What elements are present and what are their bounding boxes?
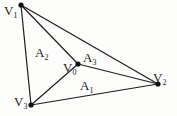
vertex-v0-dot [75,61,80,66]
vertex-label-v2: V2 [153,70,166,87]
vertex-label-v1: V1 [4,3,17,20]
area-label-a1: A1 [80,78,93,95]
vertex-label-v3: V3 [14,94,27,111]
edge-v0-v2 [78,64,158,84]
triangle-diagram: V0V1V2V3A1A2A3 [0,0,177,116]
vertex-label-v0: V0 [63,60,76,77]
edge-v3-v1 [21,5,31,105]
edge-v0-v1 [21,5,78,64]
diagram-svg: V0V1V2V3A1A2A3 [0,0,177,116]
area-label-a2: A2 [35,45,48,62]
vertex-v1-dot [18,2,23,7]
vertex-v3-dot [28,102,33,107]
edge-v2-v3 [31,84,158,105]
labels: V0V1V2V3A1A2A3 [4,3,166,111]
area-label-a3: A3 [83,50,96,67]
